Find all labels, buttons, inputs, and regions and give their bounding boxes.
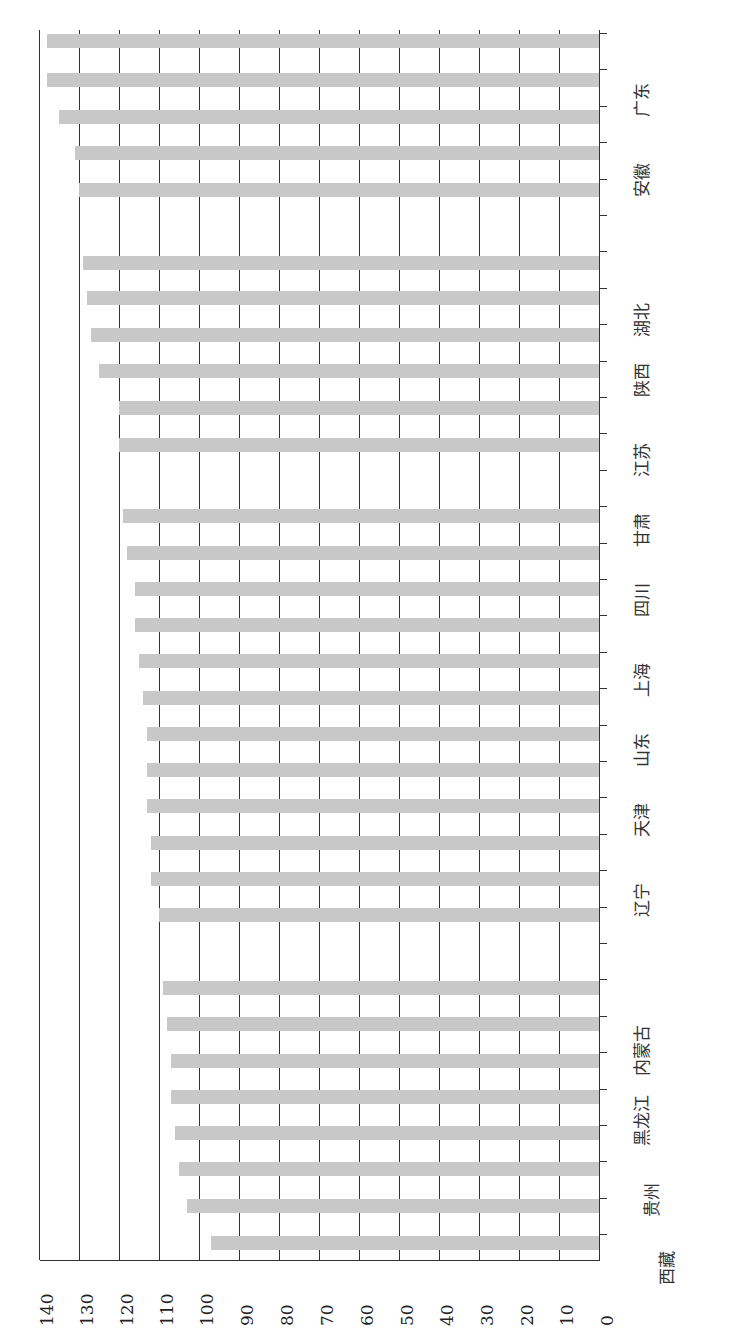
axis-tick (600, 433, 607, 434)
axis-tick (600, 69, 607, 70)
category-label: 陕西 (628, 363, 653, 397)
x-tick-label: 140 (29, 1270, 59, 1330)
axis-tick (600, 834, 607, 835)
x-tick-label: 50 (389, 1270, 419, 1330)
axis-tick (600, 543, 607, 544)
gridline (359, 30, 360, 1260)
bar (139, 654, 599, 668)
x-tick-label: 90 (229, 1270, 259, 1330)
axis-tick (600, 943, 607, 944)
bar (127, 546, 599, 560)
bar (167, 1017, 599, 1031)
gridline (199, 30, 200, 1260)
x-tick-label: 30 (469, 1270, 499, 1330)
gridline (239, 30, 240, 1260)
bar (171, 1090, 599, 1104)
category-label: 黑龙江 (628, 1095, 653, 1146)
axis-tick (600, 615, 607, 616)
bar-chart: 0102030405060708090100110120130140 西藏贵州黑… (0, 0, 732, 1330)
category-label: 内蒙古 (628, 1025, 653, 1076)
bar (119, 401, 599, 415)
axis-tick (600, 579, 607, 580)
axis-tick (600, 1234, 607, 1235)
axis-tick (600, 979, 607, 980)
bar (91, 328, 599, 342)
category-label: 甘肃 (628, 513, 653, 547)
bar (147, 799, 599, 813)
bar (87, 291, 599, 305)
category-label: 湖北 (628, 303, 653, 337)
axis-tick (600, 907, 607, 908)
bar (119, 438, 599, 452)
bar (83, 256, 599, 270)
axis-tick (600, 179, 607, 180)
x-tick-label: 120 (109, 1270, 139, 1330)
bar (79, 183, 599, 197)
x-tick-label: 60 (349, 1270, 379, 1330)
gridline (119, 30, 120, 1260)
category-label: 上海 (628, 663, 653, 697)
axis-tick (600, 506, 607, 507)
bar (123, 509, 599, 523)
axis-tick (600, 397, 607, 398)
category-label: 江苏 (628, 443, 653, 477)
category-label: 西藏 (653, 1251, 678, 1285)
axis-tick (600, 688, 607, 689)
x-tick-label: 40 (429, 1270, 459, 1330)
gridline (319, 30, 320, 1260)
axis-tick (600, 33, 607, 34)
axis-tick (600, 652, 607, 653)
gridline (39, 30, 40, 1260)
axis-tick (600, 1161, 607, 1162)
axis-tick (600, 1089, 607, 1090)
axis-tick (600, 1052, 607, 1053)
x-tick-label: 70 (309, 1270, 339, 1330)
category-label: 四川 (628, 583, 653, 617)
bar (47, 34, 599, 48)
gridline (79, 30, 80, 1260)
category-label: 安徽 (628, 163, 653, 197)
axis-tick (600, 361, 607, 362)
axis-tick (600, 1198, 607, 1199)
bar (151, 872, 599, 886)
gridline (479, 30, 480, 1260)
axis-tick (600, 870, 607, 871)
bar (59, 110, 599, 124)
axis-tick (600, 470, 607, 471)
gridline (399, 30, 400, 1260)
bar (171, 1054, 599, 1068)
x-tick-label: 100 (189, 1270, 219, 1330)
axis-tick (600, 142, 607, 143)
bar (135, 618, 599, 632)
bar (211, 1236, 599, 1250)
gridline (279, 30, 280, 1260)
category-label: 山东 (628, 733, 653, 767)
category-label: 广东 (628, 83, 653, 117)
gridline (519, 30, 520, 1260)
bar (135, 582, 599, 596)
axis-tick (600, 761, 607, 762)
x-tick-label: 130 (69, 1270, 99, 1330)
gridline (439, 30, 440, 1260)
axis-tick (600, 725, 607, 726)
x-tick-label: 10 (549, 1270, 579, 1330)
axis-tick (600, 251, 607, 252)
x-tick-label: 20 (509, 1270, 539, 1330)
bar (151, 836, 599, 850)
bar (147, 763, 599, 777)
x-tick-label: 0 (589, 1270, 619, 1330)
bar (147, 727, 599, 741)
gridline (159, 30, 160, 1260)
bar (75, 146, 599, 160)
bar (143, 691, 599, 705)
value-axis-line (40, 1260, 600, 1261)
axis-tick (600, 324, 607, 325)
x-tick-label: 80 (269, 1270, 299, 1330)
category-label: 天津 (628, 803, 653, 837)
bar (99, 364, 599, 378)
bar (179, 1162, 599, 1176)
bar (187, 1199, 599, 1213)
axis-tick (600, 215, 607, 216)
gridline (559, 30, 560, 1260)
category-label: 贵州 (638, 1183, 663, 1217)
